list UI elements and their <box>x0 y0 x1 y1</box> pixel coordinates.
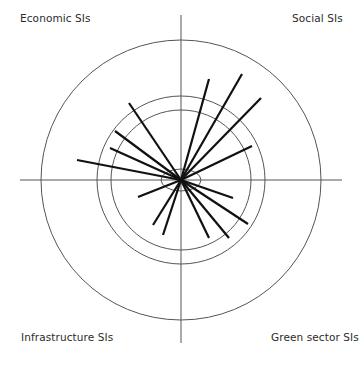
spoke-infrastructure <box>153 180 181 225</box>
spokes-group <box>77 74 261 238</box>
spoke-infrastructure <box>163 180 181 235</box>
quadrant-diagram <box>0 0 361 365</box>
label-infrastructure-sis: Infrastructure SIs <box>21 331 113 343</box>
label-economic-sis: Economic SIs <box>20 12 91 24</box>
label-green-sector-sis: Green sector SIs <box>271 331 359 343</box>
label-social-sis: Social SIs <box>292 12 343 24</box>
spoke-economic <box>77 160 181 180</box>
